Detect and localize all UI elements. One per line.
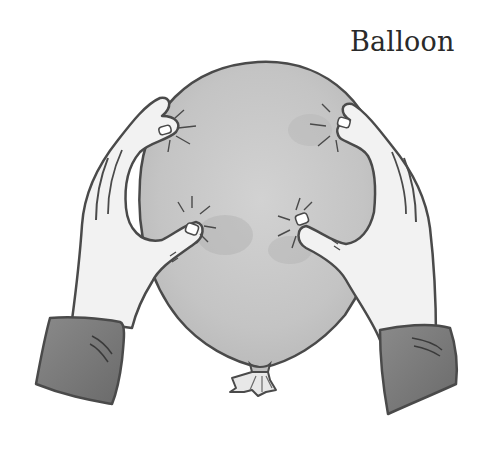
balloon-illustration — [0, 0, 496, 459]
right-sleeve — [380, 325, 457, 414]
illustration-canvas: Balloon — [0, 0, 496, 459]
balloon-knot — [230, 364, 276, 396]
left-sleeve — [36, 317, 124, 404]
